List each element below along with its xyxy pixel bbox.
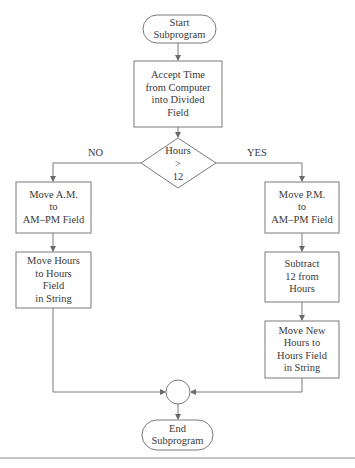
end-label: End Subprogram [142, 420, 213, 450]
edge-yes [216, 163, 302, 181]
decision-label: Hours > 12 [148, 140, 208, 186]
move-am-label: Move A.M. to AM–PM Field [16, 182, 91, 233]
yes-label: YES [247, 147, 267, 158]
subtract-label: Subtract 12 from Hours [265, 252, 339, 302]
move-hours-label: Move Hours to Hours Field in String [16, 252, 91, 308]
move-pm-label: Move P.M. to AM–PM Field [265, 182, 339, 233]
no-label: NO [88, 147, 103, 158]
accept-time-label: Accept Time from Computer into Divided F… [134, 61, 222, 127]
edge-left-merge [53, 308, 165, 392]
start-label: Start Subprogram [143, 15, 216, 43]
edge-no [53, 163, 141, 181]
connector-circle [166, 380, 190, 404]
edge-right-merge [191, 378, 302, 392]
move-new-hours-label: Move New Hours to Hours Field in String [265, 321, 339, 378]
